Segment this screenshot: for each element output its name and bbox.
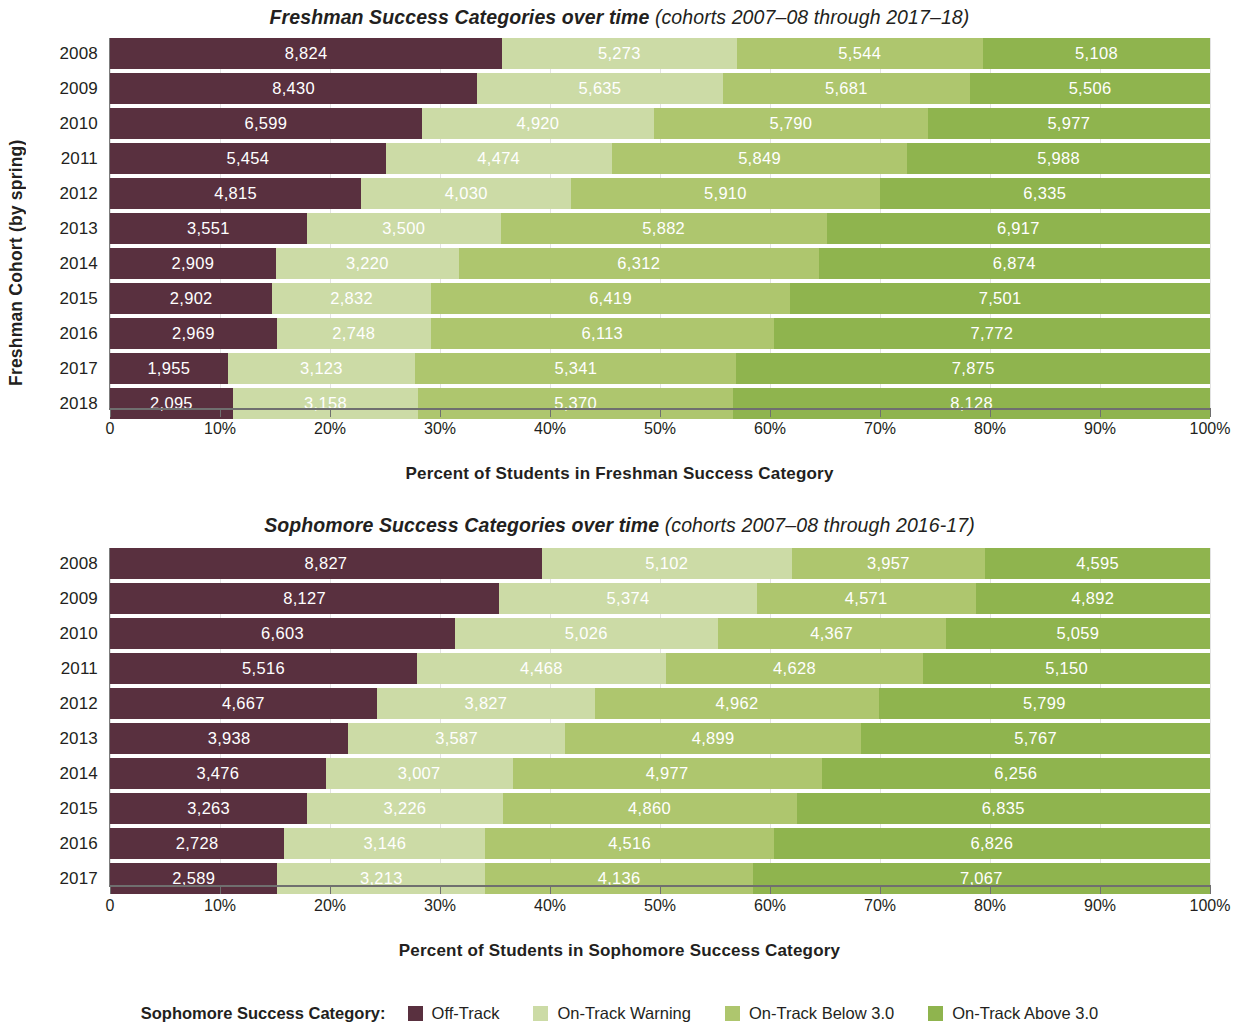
bar-segment: 6,113	[431, 318, 774, 349]
bar-row-label: 2010	[6, 618, 98, 649]
sophomore-title-main: Sophomore Success Categories over time	[264, 514, 659, 536]
bar-segment: 6,599	[110, 108, 422, 139]
bar-segment: 4,920	[422, 108, 654, 139]
bar-row-label: 2018	[6, 388, 98, 419]
bar-segment: 5,988	[907, 143, 1210, 174]
freshman-chart-panel: Freshman Success Categories over time (c…	[0, 0, 1239, 496]
bar-row: 20152,9022,8326,4197,501	[110, 283, 1210, 314]
x-axis-tick-label: 80%	[974, 897, 1006, 915]
bar-segment: 3,551	[110, 213, 307, 244]
x-axis-tick-label: 70%	[864, 897, 896, 915]
legend-item-label: On-Track Warning	[557, 1004, 691, 1023]
bar-segment: 6,835	[797, 793, 1210, 824]
bar-segment: 3,827	[377, 688, 596, 719]
bar-segment: 2,832	[272, 283, 431, 314]
x-axis-tick-label: 80%	[974, 420, 1006, 438]
x-axis-tick	[660, 408, 661, 417]
legend-item-on-track-warning: On-Track Warning	[533, 1004, 691, 1023]
bar-segment: 7,501	[790, 283, 1210, 314]
x-axis-tick	[440, 885, 441, 894]
bar-row-label: 2014	[6, 758, 98, 789]
x-axis-tick	[110, 885, 111, 894]
bar-segment: 3,123	[228, 353, 416, 384]
bar-row: 20115,5164,4684,6285,150	[110, 653, 1210, 684]
x-axis-tick	[550, 408, 551, 417]
x-axis-tick-label: 60%	[754, 897, 786, 915]
x-axis-tick	[220, 408, 221, 417]
bar-segment: 2,909	[110, 248, 276, 279]
x-axis-tick-label: 0	[106, 897, 115, 915]
bar-row-label: 2015	[6, 793, 98, 824]
bar-segment: 4,977	[513, 758, 822, 789]
bar-segment: 6,312	[459, 248, 818, 279]
freshman-chart-title: Freshman Success Categories over time (c…	[0, 0, 1239, 29]
bar-row-label: 2013	[6, 213, 98, 244]
bar-segment: 8,827	[110, 548, 542, 579]
x-axis-tick-label: 60%	[754, 420, 786, 438]
bar-segment: 2,748	[277, 318, 431, 349]
bar-segment: 4,571	[757, 583, 976, 614]
x-axis-tick-label: 30%	[424, 897, 456, 915]
x-axis-tick	[880, 885, 881, 894]
bar-segment: 5,273	[502, 38, 736, 69]
x-axis-tick-label: 30%	[424, 420, 456, 438]
legend-item-label: On-Track Below 3.0	[749, 1004, 894, 1023]
x-axis-tick	[330, 885, 331, 894]
x-axis-tick-label: 10%	[204, 420, 236, 438]
bar-segment: 6,419	[431, 283, 790, 314]
x-axis-tick-label: 40%	[534, 897, 566, 915]
sophomore-chart-panel: Sophomore Success Categories over time (…	[0, 496, 1239, 986]
legend-swatch-icon	[533, 1006, 548, 1021]
bar-segment: 4,899	[565, 723, 861, 754]
bar-segment: 2,902	[110, 283, 272, 314]
bar-row: 20171,9553,1235,3417,875	[110, 353, 1210, 384]
bar-row-label: 2014	[6, 248, 98, 279]
gridline	[1210, 38, 1211, 408]
bar-row-label: 2009	[6, 583, 98, 614]
x-axis-tick	[880, 408, 881, 417]
x-axis-tick-label: 20%	[314, 897, 346, 915]
bar-segment: 7,772	[774, 318, 1210, 349]
gridline	[1210, 548, 1211, 885]
bar-segment: 5,150	[923, 653, 1210, 684]
bar-row-label: 2016	[6, 828, 98, 859]
bar-segment: 5,341	[415, 353, 736, 384]
x-axis-tick-label: 0	[106, 420, 115, 438]
bar-segment: 3,500	[307, 213, 501, 244]
x-axis-tick	[110, 408, 111, 417]
bar-row-label: 2008	[6, 38, 98, 69]
bar-row-label: 2012	[6, 178, 98, 209]
bar-segment: 5,790	[654, 108, 928, 139]
freshman-bar-rows: 20088,8245,2735,5445,10820098,4305,6355,…	[110, 38, 1210, 419]
legend-items: Off-TrackOn-Track WarningOn-Track Below …	[408, 1004, 1099, 1023]
x-axis-tick	[990, 885, 991, 894]
bar-segment: 5,544	[737, 38, 983, 69]
bar-row-label: 2016	[6, 318, 98, 349]
bar-segment: 4,030	[361, 178, 571, 209]
x-axis-tick	[550, 885, 551, 894]
bar-segment: 6,335	[880, 178, 1210, 209]
legend-swatch-icon	[408, 1006, 423, 1021]
bar-row: 20142,9093,2206,3126,874	[110, 248, 1210, 279]
bar-segment: 4,474	[386, 143, 612, 174]
bar-segment: 4,516	[485, 828, 774, 859]
bar-row: 20088,8275,1023,9574,595	[110, 548, 1210, 579]
x-axis-tick	[1100, 408, 1101, 417]
bar-row-label: 2008	[6, 548, 98, 579]
bar-row-label: 2017	[6, 863, 98, 894]
legend-item-label: Off-Track	[432, 1004, 500, 1023]
bar-segment: 5,374	[499, 583, 756, 614]
legend-item-on-track-above-3: On-Track Above 3.0	[928, 1004, 1098, 1023]
bar-segment: 6,603	[110, 618, 455, 649]
freshman-plot-area: 20088,8245,2735,5445,10820098,4305,6355,…	[110, 38, 1210, 408]
bar-row: 20124,8154,0305,9106,335	[110, 178, 1210, 209]
bar-row: 20153,2633,2264,8606,835	[110, 793, 1210, 824]
x-axis-tick	[770, 885, 771, 894]
bar-row-label: 2015	[6, 283, 98, 314]
bar-segment: 6,826	[774, 828, 1210, 859]
sophomore-bar-rows: 20088,8275,1023,9574,59520098,1275,3744,…	[110, 548, 1210, 894]
x-axis-tick	[990, 408, 991, 417]
sophomore-chart-title: Sophomore Success Categories over time (…	[0, 496, 1239, 537]
bar-segment: 8,824	[110, 38, 502, 69]
bar-segment: 6,917	[827, 213, 1210, 244]
